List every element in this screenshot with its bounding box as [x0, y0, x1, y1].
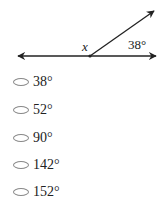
- option-38[interactable]: 38°: [13, 73, 53, 91]
- option-52[interactable]: 52°: [13, 101, 53, 119]
- option-label: 38°: [33, 74, 53, 90]
- radio-button[interactable]: [13, 134, 29, 142]
- option-label: 52°: [33, 102, 53, 118]
- option-152[interactable]: 152°: [13, 183, 60, 201]
- radio-button[interactable]: [13, 161, 29, 169]
- angle-label: 38°: [128, 37, 146, 52]
- vertex-label: x: [81, 39, 88, 54]
- radio-button[interactable]: [13, 78, 29, 86]
- option-label: 90°: [33, 130, 53, 146]
- radio-button[interactable]: [13, 188, 29, 196]
- option-label: 142°: [33, 157, 60, 173]
- option-142[interactable]: 142°: [13, 156, 60, 174]
- option-90[interactable]: 90°: [13, 129, 53, 147]
- option-label: 152°: [33, 184, 60, 200]
- vertex-point: [88, 54, 91, 57]
- radio-button[interactable]: [13, 106, 29, 114]
- angle-figure: x 38°: [0, 0, 166, 70]
